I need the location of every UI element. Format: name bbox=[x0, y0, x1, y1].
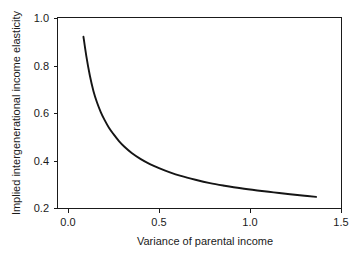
x-tick-label-0.5: 0.5 bbox=[151, 216, 166, 228]
x-tick-label-1.5: 1.5 bbox=[333, 216, 348, 228]
x-tick-label-1.0: 1.0 bbox=[242, 216, 257, 228]
data-series-line bbox=[83, 37, 316, 197]
chart-container: 0.2 0.4 0.6 0.8 1.0 0.0 0.5 1.0 1.5 Vari… bbox=[0, 0, 363, 260]
x-axis-ticks bbox=[68, 209, 341, 213]
y-tick-label-0.2: 0.2 bbox=[34, 202, 49, 214]
y-tick-label-1.0: 1.0 bbox=[34, 12, 49, 24]
x-axis-title: Variance of parental income bbox=[137, 235, 273, 247]
y-axis-ticks bbox=[54, 19, 58, 209]
y-axis-title: Implied intergenerational income elastic… bbox=[10, 10, 22, 215]
y-tick-label-0.8: 0.8 bbox=[34, 60, 49, 72]
line-chart: 0.2 0.4 0.6 0.8 1.0 0.0 0.5 1.0 1.5 Vari… bbox=[0, 0, 363, 260]
y-tick-label-0.4: 0.4 bbox=[34, 155, 49, 167]
y-tick-label-0.6: 0.6 bbox=[34, 107, 49, 119]
x-tick-label-0.0: 0.0 bbox=[60, 216, 75, 228]
